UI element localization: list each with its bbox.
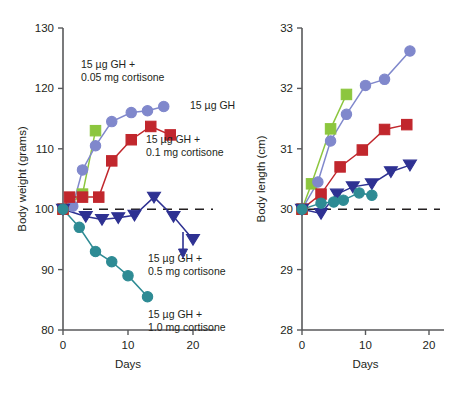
marker-square: [146, 121, 156, 131]
marker-circle: [58, 204, 68, 214]
marker-square: [90, 125, 100, 135]
x-axis-title-right: Days: [352, 358, 378, 370]
marker-triangle-down: [96, 215, 109, 226]
marker-circle: [142, 106, 152, 116]
marker-circle: [405, 46, 415, 56]
y-tick-label-right: 30: [280, 203, 293, 215]
y-tick-label-left: 130: [35, 22, 54, 34]
marker-triangle-down: [167, 212, 180, 223]
marker-circle: [338, 195, 348, 205]
series-annotation-3: 0.5 mg cortisone: [148, 265, 226, 277]
marker-triangle-down: [315, 208, 328, 219]
marker-square: [341, 89, 351, 99]
marker-square: [335, 162, 345, 172]
series-annotation-0: 0.05 mg cortisone: [81, 71, 165, 83]
marker-square: [126, 135, 136, 145]
marker-triangle-down: [403, 160, 416, 171]
y-tick-label-left: 90: [41, 264, 54, 276]
x-axis-title-left: Days: [115, 358, 141, 370]
series-annotation-4: 1.0 mg cortisone: [148, 321, 226, 333]
y-axis-title-right: Body length (cm): [255, 135, 267, 222]
marker-square: [64, 192, 74, 202]
y-tick-label-right: 32: [280, 82, 293, 94]
series-annotation-4: 15 µg GH +: [148, 308, 202, 320]
x-tick-label-right: 10: [359, 339, 372, 351]
marker-circle: [313, 177, 323, 187]
x-tick-label-left: 0: [60, 339, 66, 351]
marker-circle: [325, 136, 335, 146]
y-tick-label-left: 110: [36, 143, 54, 155]
marker-circle: [354, 188, 364, 198]
marker-circle: [107, 116, 117, 126]
two-panel-growth-chart: 809010011012013001020DaysBody weight (gr…: [0, 0, 456, 403]
figure-container: 809010011012013001020DaysBody weight (gr…: [0, 0, 456, 403]
y-tick-label-right: 29: [280, 264, 293, 276]
marker-circle: [90, 246, 100, 256]
marker-triangle-down: [384, 167, 397, 178]
marker-square: [402, 119, 412, 129]
panel-right: 28293031323301020DaysBody length (cm): [255, 22, 444, 370]
marker-circle: [360, 80, 370, 90]
marker-circle: [316, 198, 326, 208]
marker-circle: [74, 222, 84, 232]
series-annotation-2: 15 µg GH +: [146, 133, 200, 145]
marker-circle: [297, 204, 307, 214]
x-tick-label-left: 10: [122, 339, 135, 351]
marker-square: [94, 192, 104, 202]
marker-square: [379, 124, 389, 134]
panel-left: 809010011012013001020DaysBody weight (gr…: [16, 22, 235, 370]
marker-circle: [341, 109, 351, 119]
series-annotation-1: 15 µg GH: [190, 99, 235, 111]
series-annotation-2: 0.1 mg cortisone: [146, 146, 224, 158]
y-tick-label-right: 33: [280, 22, 293, 34]
marker-circle: [90, 141, 100, 151]
marker-circle: [379, 74, 389, 84]
y-tick-label-right: 31: [280, 143, 293, 155]
x-tick-label-left: 20: [187, 339, 200, 351]
series-line-4-left: [63, 209, 148, 297]
x-tick-label-right: 20: [423, 339, 436, 351]
marker-square: [107, 156, 117, 166]
marker-square: [357, 145, 367, 155]
y-tick-label-left: 100: [35, 203, 54, 215]
marker-circle: [367, 190, 377, 200]
marker-circle: [123, 270, 133, 280]
y-tick-label-right: 28: [280, 324, 293, 336]
marker-circle: [159, 101, 169, 111]
x-tick-label-right: 0: [299, 339, 305, 351]
marker-circle: [329, 197, 339, 207]
marker-circle: [126, 107, 136, 117]
marker-circle: [107, 257, 117, 267]
y-tick-label-left: 80: [41, 324, 54, 336]
series-annotation-0: 15 µg GH +: [81, 58, 135, 70]
series-annotation-3: 15 µg GH +: [148, 252, 202, 264]
marker-square: [77, 192, 87, 202]
marker-square: [325, 124, 335, 134]
marker-circle: [77, 165, 87, 175]
marker-circle: [142, 292, 152, 302]
marker-triangle-down: [187, 234, 200, 245]
y-axis-title-left: Body weight (grams): [16, 126, 28, 232]
y-tick-label-left: 120: [35, 82, 54, 94]
